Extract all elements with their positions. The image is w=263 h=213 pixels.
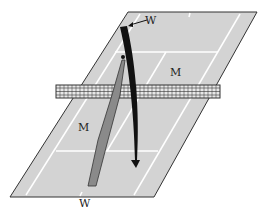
center-mark-far [189, 13, 190, 17]
tennis-court-diagram: W M M W [0, 0, 263, 213]
label-bottom-player: W [79, 197, 91, 210]
ball-icon [121, 55, 125, 59]
label-top-player: W [145, 14, 157, 27]
net [56, 85, 220, 98]
label-near-court-player: M [78, 121, 89, 134]
label-far-court-player: M [170, 66, 181, 79]
